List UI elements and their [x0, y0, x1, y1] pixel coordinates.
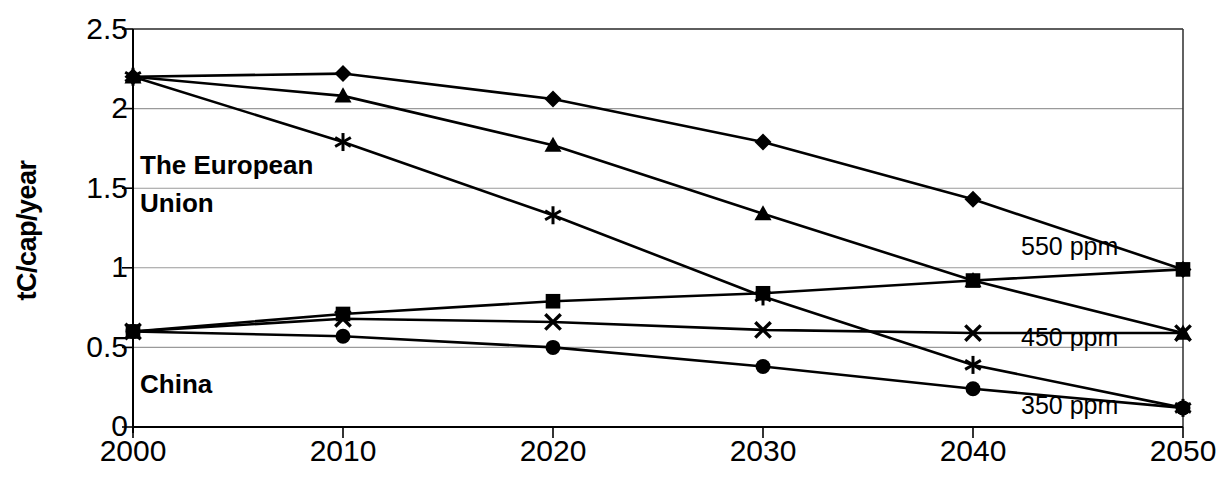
grid-lines: [133, 29, 1183, 347]
x-tick-label-2050: 2050: [1123, 436, 1225, 466]
series-end-label-550ppm: 550 ppm: [1021, 234, 1118, 259]
annotation-china: China: [140, 367, 212, 401]
x-tick-label-2010: 2010: [283, 436, 403, 466]
chart-figure: tC/cap/year 2.5 2 1.5 1 0.5 0 2000 2010 …: [0, 0, 1225, 504]
series-end-label-450ppm: 450 ppm: [1021, 325, 1118, 350]
x-tick-label-2020: 2020: [493, 436, 613, 466]
axis-frame: [133, 29, 1183, 433]
x-tick-label-2000: 2000: [73, 436, 193, 466]
y-axis-title: tC/cap/year: [12, 116, 43, 346]
annotation-european-union-line1: The European: [140, 148, 313, 182]
x-tick-label-2040: 2040: [913, 436, 1033, 466]
annotation-european-union-line2: Union: [140, 186, 214, 220]
y-tick-label-1: 1: [38, 252, 128, 282]
y-tick-label-2.5: 2.5: [38, 14, 128, 44]
series-end-label-350ppm: 350 ppm: [1021, 393, 1118, 418]
x-tick-label-2030: 2030: [703, 436, 823, 466]
y-tick-label-0.5: 0.5: [38, 332, 128, 362]
y-tick-label-1.5: 1.5: [38, 173, 128, 203]
y-tick-label-2: 2: [38, 93, 128, 123]
